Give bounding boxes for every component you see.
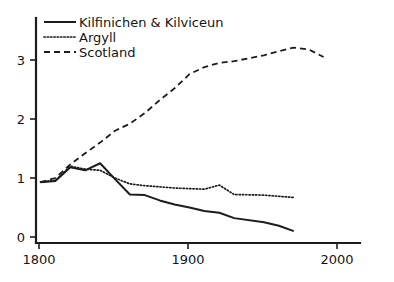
- chart-legend: Kilfinichen & KilviceunArgyllScotland: [44, 15, 224, 60]
- series-line-kilfinichen-kilviceun: [40, 163, 293, 231]
- y-tick-label: 0: [17, 230, 25, 245]
- legend-label: Kilfinichen & Kilviceun: [79, 15, 224, 30]
- x-tick-label: 2000: [320, 252, 353, 267]
- series-line-argyll: [40, 166, 293, 197]
- y-tick-label: 3: [17, 53, 25, 68]
- axis-ticks: 0123180019002000: [17, 53, 354, 267]
- y-tick-label: 1: [17, 171, 25, 186]
- legend-label: Scotland: [79, 45, 136, 60]
- series-line-scotland: [40, 48, 323, 183]
- data-series-group: [40, 48, 323, 231]
- x-tick-label: 1800: [22, 252, 55, 267]
- chart-container: 0123180019002000 Kilfinichen & Kilviceun…: [0, 0, 394, 282]
- x-tick-label: 1900: [171, 252, 204, 267]
- legend-label: Argyll: [79, 30, 116, 45]
- y-tick-label: 2: [17, 112, 25, 127]
- line-chart: 0123180019002000 Kilfinichen & Kilviceun…: [0, 0, 394, 282]
